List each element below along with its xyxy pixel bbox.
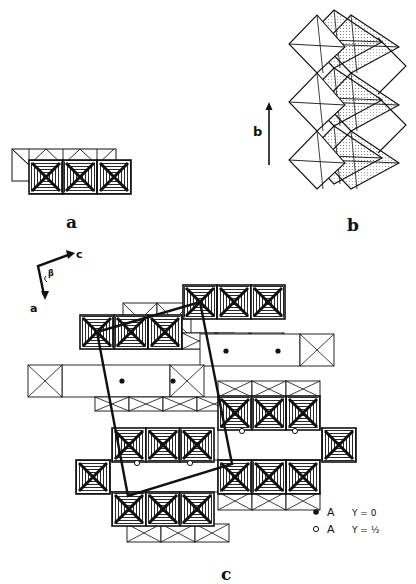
hatched-octahedron — [146, 492, 180, 526]
b-axis-label: b — [253, 124, 262, 139]
caption-c: c — [221, 564, 231, 584]
caption-b: b — [347, 215, 359, 235]
axes-indicator — [38, 250, 75, 300]
hatched-octahedron — [252, 460, 286, 494]
panel-b — [289, 10, 406, 189]
panel-a — [12, 149, 131, 194]
plain-octahedron — [300, 334, 334, 366]
legend-value-0: Y = 0 — [351, 508, 377, 518]
hatched-octahedron — [322, 428, 356, 462]
panel-c — [28, 285, 356, 542]
hatched-octahedron — [97, 160, 131, 194]
hatched-octahedron — [63, 160, 97, 194]
filled-atom-dot — [119, 378, 124, 383]
hatched-octahedron — [148, 315, 182, 349]
hatched-octahedron — [112, 492, 146, 526]
open-atom-dot — [292, 428, 297, 433]
hatched-octahedron — [146, 428, 180, 462]
plain-octahedron — [129, 397, 163, 411]
filled-atom-dot — [170, 378, 175, 383]
hatched-octahedron — [76, 460, 110, 494]
c-arrow-head-icon — [66, 250, 75, 259]
hatched-octahedron — [114, 315, 148, 349]
beta-angle-label: β — [48, 269, 54, 278]
open-circle-icon — [313, 526, 318, 531]
hatched-octahedron — [180, 428, 214, 462]
cavity-row — [218, 428, 322, 460]
plain-octahedron — [28, 365, 62, 397]
open-atom-dot — [239, 428, 244, 433]
legend-value-1: Y = ½ — [351, 525, 380, 535]
plain-octahedron — [286, 381, 320, 397]
filled-atom-dot — [223, 348, 228, 353]
figure-canvas: a b b c a β A Y = 0 A Y = ½ c — [0, 0, 416, 584]
hatched-octahedron — [286, 460, 320, 494]
plain-octahedron — [163, 397, 197, 411]
a-axis-label: a — [30, 302, 37, 315]
a-arrow-head-icon — [41, 291, 49, 300]
b-axis-arrow — [266, 102, 273, 165]
hatched-octahedron — [286, 396, 320, 430]
open-atom-dot — [187, 460, 192, 465]
cavity-row — [200, 334, 300, 366]
cavity-row — [62, 365, 170, 397]
legend-label-0: A — [327, 506, 335, 519]
hatched-octahedron — [29, 160, 63, 194]
legend-label-1: A — [327, 523, 335, 536]
filled-atom-dot — [275, 348, 280, 353]
arrow-head-icon — [266, 102, 273, 110]
open-atom-dot — [134, 460, 139, 465]
hatched-octahedron — [252, 396, 286, 430]
plain-octahedron — [252, 381, 286, 397]
plain-octahedron — [218, 381, 252, 397]
hatched-octahedron — [251, 285, 285, 319]
filled-circle-icon — [313, 509, 319, 515]
caption-a: a — [66, 212, 77, 232]
hatched-octahedron — [218, 460, 252, 494]
hatched-octahedron — [217, 285, 251, 319]
octahedral-chain — [289, 15, 345, 189]
legend: A Y = 0 A Y = ½ — [313, 506, 380, 536]
c-axis-label: c — [76, 248, 83, 261]
hatched-octahedron — [180, 492, 214, 526]
